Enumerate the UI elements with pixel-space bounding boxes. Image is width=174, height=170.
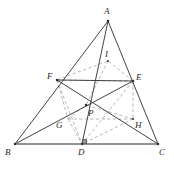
- dot-A: [107, 20, 110, 23]
- label-I: I: [105, 50, 108, 59]
- dot-I: [107, 60, 109, 62]
- dashed-GD: [68, 119, 82, 144]
- dashed-FI: [57, 61, 108, 80]
- label-F: F: [47, 72, 53, 81]
- label-H: H: [135, 121, 142, 130]
- dot-D: [81, 143, 83, 145]
- dashed-FD: [57, 80, 82, 144]
- dot-C: [157, 143, 160, 146]
- dot-B: [14, 143, 17, 146]
- cevian-CF: [57, 80, 158, 144]
- label-A: A: [104, 7, 110, 16]
- geometry-figure: A B C D E F G H I P: [0, 0, 174, 170]
- geometry-canvas: [0, 0, 174, 170]
- side-AC: [108, 21, 158, 144]
- cevian-AD: [82, 21, 108, 144]
- dot-P: [85, 104, 88, 107]
- label-B: B: [5, 148, 11, 157]
- label-D: D: [78, 148, 85, 157]
- label-E: E: [136, 73, 142, 82]
- dot-F: [56, 79, 59, 82]
- dashed-EI: [108, 61, 133, 81]
- dot-E: [132, 80, 135, 83]
- dot-H: [132, 118, 134, 120]
- label-P: P: [88, 109, 94, 118]
- chord-FE: [57, 80, 133, 81]
- label-G: G: [56, 121, 63, 130]
- label-C: C: [159, 148, 165, 157]
